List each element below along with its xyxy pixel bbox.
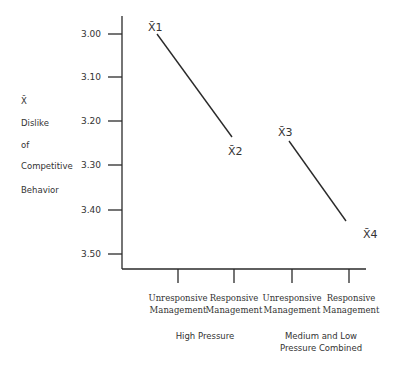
x-ticks: [178, 269, 349, 283]
group-label-medium-low-pressure: Medium and Low: [285, 331, 357, 341]
y-tick-label: 3.20: [81, 116, 101, 126]
point-label-x2: X̄2: [228, 145, 243, 158]
point-label-x4: X̄4: [363, 228, 378, 241]
x-category-label: Unresponsive: [262, 293, 321, 303]
y-tick-label: 3.50: [81, 249, 101, 259]
x-category-label: Unresponsive: [148, 293, 207, 303]
x-category-label: Management: [206, 305, 263, 315]
y-tick-label: 3.00: [81, 29, 101, 39]
x-category-label: Management: [150, 305, 207, 315]
series-medium-low-pressure-line: [289, 141, 346, 221]
series-high-pressure-line: [157, 34, 232, 137]
point-label-x1: X̄1: [148, 21, 163, 34]
y-ticks: [108, 34, 122, 254]
chart: 3.00 3.10 3.20 3.30 3.40 3.50 X̄ Dislike…: [0, 0, 396, 371]
group-label-high-pressure: High Pressure: [176, 331, 235, 341]
x-category-label: Management: [264, 305, 321, 315]
y-tick-label: 3.10: [81, 72, 101, 82]
x-category-label: Responsive: [210, 293, 259, 303]
x-category-label: Responsive: [327, 293, 376, 303]
x-category-label: Management: [323, 305, 380, 315]
group-label-medium-low-pressure: Pressure Combined: [280, 343, 362, 353]
y-axis-title-line: of: [21, 140, 30, 150]
y-axis-title-xbar: X̄: [21, 95, 27, 106]
y-axis-title-line: Dislike: [21, 118, 49, 128]
y-tick-label: 3.30: [81, 160, 101, 170]
y-axis-title-line: Competitive: [21, 161, 73, 171]
point-label-x3: X̄3: [278, 126, 293, 139]
y-axis-title-line: Behavior: [21, 185, 59, 195]
y-tick-label: 3.40: [81, 205, 101, 215]
